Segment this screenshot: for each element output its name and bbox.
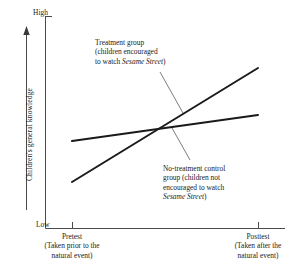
annotation-control-line4-suffix: ) [204,192,206,201]
x-tick-label-pretest-sub2: natural event) [2,251,142,260]
annotation-treatment-line1: Treatment group [95,38,166,47]
annotation-control-line1: No-treatment control [163,164,225,173]
annotation-control-line2: group (children not [163,173,225,182]
y-axis-high-label: High [33,8,48,17]
annotation-treatment-line2: (children encouraged [95,47,166,56]
leader-line-treatment [160,72,183,113]
annotation-treatment-show-title: Sesame Street [122,57,163,66]
y-axis-direction-arrow-icon [23,26,29,35]
x-tick-label-posttest-sub1: (Taken after the [190,241,289,250]
leader-line-control [172,128,190,160]
y-axis-low-label: Low [36,220,50,229]
x-tick-label-pretest-sub1: (Taken prior to the [2,241,142,250]
annotation-treatment-line3: to watch Sesame Street) [95,57,166,66]
annotation-treatment-group: Treatment group (children encouraged to … [95,38,166,66]
series-line-control [72,115,258,141]
annotation-treatment-line3-prefix: to watch [95,57,122,66]
x-tick-label-pretest: Pretest (Taken prior to the natural even… [2,232,142,260]
annotation-control-line4: Sesame Street) [163,192,225,201]
annotation-control-group: No-treatment control group (children not… [163,164,225,202]
annotation-treatment-line3-suffix: ) [163,57,165,66]
annotation-control-show-title: Sesame Street [163,192,204,201]
annotation-control-line3: encouraged to watch [163,183,225,192]
x-tick-label-pretest-name: Pretest [2,232,142,241]
x-tick-label-posttest: Posttest (Taken after the natural event) [190,232,289,260]
x-tick-label-posttest-name: Posttest [190,232,289,241]
y-axis-title: Children's general knowledge [25,55,34,215]
x-tick-label-posttest-sub2: natural event) [190,251,289,260]
chart-figure: High Low Children's general knowledge Pr… [0,0,289,275]
